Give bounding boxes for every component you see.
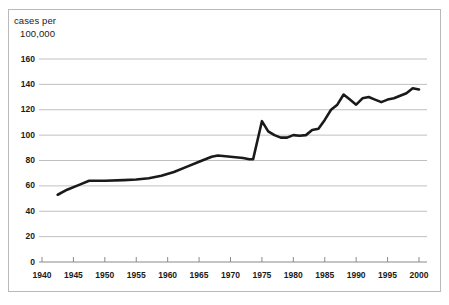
- gridlines: [39, 59, 427, 262]
- y-tick-label: 20: [9, 231, 35, 241]
- y-tick-label: 80: [9, 155, 35, 165]
- x-tick-label: 1970: [214, 270, 248, 280]
- x-tick-label: 1945: [56, 270, 90, 280]
- chart-figure: cases per100,000 020406080100120140160 1…: [0, 0, 449, 305]
- y-tick-label: 100: [9, 130, 35, 140]
- x-tick-label: 1980: [276, 270, 310, 280]
- x-tick-label: 1995: [371, 270, 405, 280]
- x-tick-label: 1990: [339, 270, 373, 280]
- x-tick-label: 1960: [151, 270, 185, 280]
- y-tick-label: 40: [9, 206, 35, 216]
- x-tick-label: 1975: [245, 270, 279, 280]
- x-tick-label: 1940: [25, 270, 59, 280]
- data-series-line: [58, 88, 419, 195]
- axis-ticks: [42, 257, 419, 262]
- y-tick-label: 120: [9, 104, 35, 114]
- y-tick-label: 0: [9, 257, 35, 267]
- x-tick-label: 1950: [88, 270, 122, 280]
- y-tick-label: 160: [9, 54, 35, 64]
- y-tick-label: 60: [9, 180, 35, 190]
- y-tick-label: 140: [9, 79, 35, 89]
- x-tick-label: 2000: [402, 270, 436, 280]
- plot-area: [0, 0, 449, 305]
- x-tick-label: 1955: [119, 270, 153, 280]
- x-tick-label: 1985: [308, 270, 342, 280]
- x-tick-label: 1965: [182, 270, 216, 280]
